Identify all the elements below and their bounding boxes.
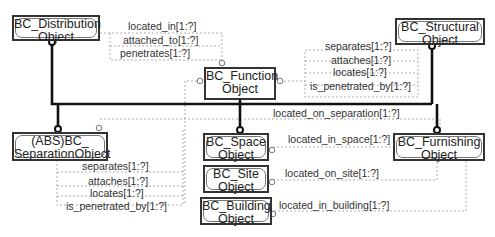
entity-bc-function-object[interactable]: BC_Function Object: [204, 67, 276, 100]
entity-label: Object: [205, 149, 267, 162]
entity-abs-bc-separation-object[interactable]: (ABS)BC_ SeparationObject: [12, 132, 108, 161]
attribute-attached-to: attached_to[1:?]: [123, 34, 198, 46]
entity-label: Object: [14, 31, 98, 44]
relation-located-in-building: located_in_building[1:?]: [279, 199, 389, 211]
entity-bc-space-object[interactable]: BC_Space Object: [203, 133, 269, 161]
attribute-is-penetrated-by: is_penetrated_by[1:?]: [66, 200, 167, 212]
attribute-attaches: attaches[1:?]: [88, 175, 148, 187]
attribute-is-penetrated-by: is_penetrated_by[1:?]: [310, 80, 411, 92]
attribute-separates: separates[1:?]: [325, 40, 392, 52]
entity-bc-building-object[interactable]: BC_Building Object: [200, 197, 272, 225]
entity-label: Object: [205, 181, 267, 194]
entity-bc-site-object[interactable]: BC_Site Object: [203, 165, 269, 193]
attribute-separates: separates[1:?]: [82, 160, 149, 172]
entity-label: Object: [395, 149, 483, 162]
relation-located-on-separation: located_on_separation[1:?]: [273, 107, 400, 119]
entity-bc-structural-object[interactable]: BC_Structural Object: [395, 18, 485, 45]
relation-located-in-space: located_in_space[1:?]: [288, 133, 390, 145]
attribute-attaches: attaches[1:?]: [331, 54, 391, 66]
attribute-locates: locates[1:?]: [333, 66, 387, 78]
entity-label: Object: [202, 213, 270, 226]
entity-label: Object: [206, 83, 274, 96]
attribute-locates: locates[1:?]: [90, 187, 144, 199]
attribute-located-in: located_in[1:?]: [128, 20, 196, 32]
entity-bc-furnishing-object[interactable]: BC_Furnishing Object: [393, 133, 485, 161]
entity-bc-distribution-object[interactable]: BC_Distribution Object: [12, 15, 100, 41]
attribute-penetrates: penetrates[1:?]: [120, 47, 190, 59]
entity-label: Object: [397, 34, 483, 47]
relation-located-on-site: located_on_site[1:?]: [285, 167, 379, 179]
